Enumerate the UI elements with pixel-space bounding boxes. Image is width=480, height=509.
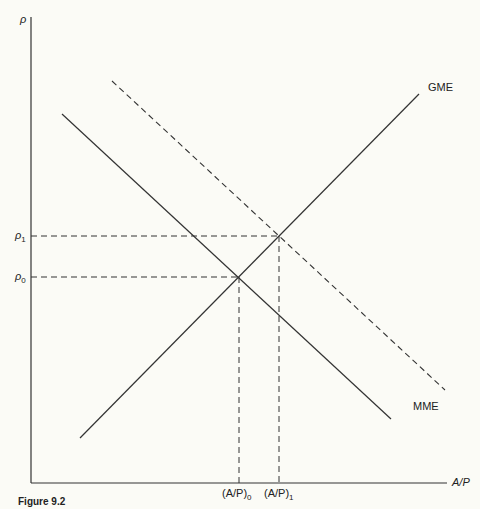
gme-line [80, 94, 419, 438]
rho0-label: ρ0 [15, 270, 26, 285]
mme-line [62, 114, 391, 419]
ap0-label: (A/P)0 [222, 487, 252, 502]
gme-label: GME [428, 81, 453, 93]
diagram: ρ A/P ρ1 ρ0 (A/P)0 (A/P)1 GME MME Figure… [0, 0, 480, 509]
y-axis-label: ρ [20, 13, 26, 25]
x-axis-label: A/P [452, 476, 470, 488]
mme-label: MME [413, 400, 439, 412]
ap1-label: (A/P)1 [264, 487, 294, 502]
figure-caption: Figure 9.2 [18, 496, 65, 507]
rho1-label: ρ1 [15, 229, 26, 244]
diagram-canvas [0, 0, 480, 509]
